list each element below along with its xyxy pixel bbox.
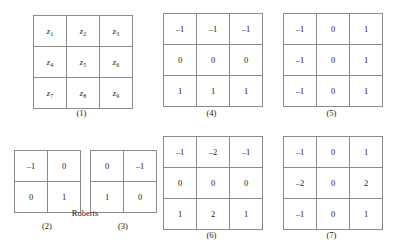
matrix-prewitt-gx: –1 –1 –1 0 0 0 1 1 1	[163, 13, 263, 107]
matrix-cell: z6	[100, 47, 133, 78]
matrix-cell: 0	[230, 168, 263, 199]
matrix-cell: –2	[197, 137, 230, 168]
matrix-cell: 0	[317, 199, 350, 230]
matrix-cell: z3	[100, 16, 133, 47]
matrix-cell: 0	[317, 76, 350, 107]
matrix-row: –1 –2 –1	[164, 137, 263, 168]
matrix-row: z7 z8 z9	[34, 78, 133, 109]
matrix-row: z1 z2 z3	[34, 16, 133, 47]
matrix-row: 0 –1	[91, 151, 157, 182]
matrix-row: –1 –1 –1	[164, 14, 263, 45]
matrix-sobel-gx: –1 –2 –1 0 0 0 1 2 1	[163, 136, 263, 230]
matrix-row: –1 0 1	[284, 14, 383, 45]
matrix-cell: z4	[34, 47, 67, 78]
symbol-subscript: 5	[83, 62, 86, 68]
matrix-row: –1 0 1	[284, 199, 383, 230]
matrix-cell: 0	[317, 14, 350, 45]
matrix-row: –2 0 2	[284, 168, 383, 199]
figure-canvas: z1 z2 z3 z4 z5 z6 z7 z8 z9 (1)	[0, 0, 393, 248]
matrix-cell: 0	[124, 182, 157, 213]
matrix-cell: 2	[350, 168, 383, 199]
matrix-grid: –1 0 1 –1 0 1 –1 0 1	[283, 13, 383, 107]
matrix-cell: –1	[124, 151, 157, 182]
caption-neighborhood: (1)	[33, 109, 130, 118]
matrix-cell: 0	[197, 168, 230, 199]
caption-roberts-gy: (3)	[90, 222, 156, 231]
matrix-row: 1 2 1	[164, 199, 263, 230]
matrix-grid: –1 –1 –1 0 0 0 1 1 1	[163, 13, 263, 107]
matrix-cell: 1	[350, 45, 383, 76]
matrix-prewitt-gy: –1 0 1 –1 0 1 –1 0 1	[283, 13, 383, 107]
matrix-row: 0 0 0	[164, 45, 263, 76]
matrix-cell: 1	[230, 76, 263, 107]
symbol-subscript: 9	[116, 93, 119, 99]
matrix-cell: z5	[67, 47, 100, 78]
matrix-cell: z7	[34, 78, 67, 109]
caption-roberts-gx: (2)	[14, 222, 80, 231]
matrix-cell: z9	[100, 78, 133, 109]
matrix-grid: –1 0 1 –2 0 2 –1 0 1	[283, 136, 383, 230]
symbol-subscript: 1	[50, 31, 53, 37]
symbol-subscript: 4	[50, 62, 53, 68]
matrix-row: –1 0 1	[284, 45, 383, 76]
matrix-neighborhood: z1 z2 z3 z4 z5 z6 z7 z8 z9	[33, 15, 133, 109]
matrix-cell: 0	[15, 182, 48, 213]
matrix-cell: 0	[164, 45, 197, 76]
matrix-grid: –1 0 0 1	[14, 150, 81, 213]
caption-prewitt-gx: (4)	[163, 109, 260, 118]
matrix-cell: –1	[164, 137, 197, 168]
matrix-cell: 0	[230, 45, 263, 76]
matrix-cell: 0	[317, 45, 350, 76]
matrix-row: 0 1	[15, 182, 81, 213]
matrix-cell: z2	[67, 16, 100, 47]
matrix-cell: –1	[284, 14, 317, 45]
matrix-cell: –1	[230, 137, 263, 168]
matrix-cell: 0	[317, 137, 350, 168]
matrix-row: 1 1 1	[164, 76, 263, 107]
matrix-cell: –1	[284, 137, 317, 168]
matrix-row: 0 0 0	[164, 168, 263, 199]
matrix-cell: 1	[197, 76, 230, 107]
matrix-cell: –1	[284, 45, 317, 76]
matrix-cell: 2	[197, 199, 230, 230]
matrix-row: z4 z5 z6	[34, 47, 133, 78]
matrix-grid: z1 z2 z3 z4 z5 z6 z7 z8 z9	[33, 15, 133, 109]
matrix-cell: –1	[15, 151, 48, 182]
matrix-cell: –1	[164, 14, 197, 45]
matrix-row: –1 0	[15, 151, 81, 182]
matrix-row: –1 0 1	[284, 76, 383, 107]
matrix-grid: 0 –1 1 0	[90, 150, 157, 213]
matrix-sobel-gy: –1 0 1 –2 0 2 –1 0 1	[283, 136, 383, 230]
caption-prewitt-gy: (5)	[283, 109, 380, 118]
matrix-cell: –2	[284, 168, 317, 199]
matrix-roberts-gx: –1 0 0 1	[14, 150, 81, 213]
matrix-cell: –1	[284, 76, 317, 107]
matrix-roberts-gy: 0 –1 1 0	[90, 150, 157, 213]
matrix-cell: 0	[197, 45, 230, 76]
matrix-cell: 1	[350, 14, 383, 45]
matrix-row: –1 0 1	[284, 137, 383, 168]
matrix-cell: 1	[164, 199, 197, 230]
matrix-cell: 1	[350, 199, 383, 230]
matrix-cell: –1	[197, 14, 230, 45]
matrix-cell: 1	[350, 76, 383, 107]
matrix-grid: –1 –2 –1 0 0 0 1 2 1	[163, 136, 263, 230]
matrix-cell: 1	[350, 137, 383, 168]
matrix-cell: z8	[67, 78, 100, 109]
symbol-subscript: 3	[116, 31, 119, 37]
matrix-row: 1 0	[91, 182, 157, 213]
symbol-subscript: 2	[83, 31, 86, 37]
caption-sobel-gy: (7)	[283, 231, 380, 240]
matrix-cell: 0	[91, 151, 124, 182]
symbol-subscript: 8	[83, 93, 86, 99]
matrix-cell: 1	[230, 199, 263, 230]
group-label-roberts: Roberts	[14, 209, 156, 218]
symbol-subscript: 6	[116, 62, 119, 68]
caption-sobel-gx: (6)	[163, 231, 260, 240]
matrix-cell: –1	[284, 199, 317, 230]
matrix-cell: 1	[164, 76, 197, 107]
symbol-subscript: 7	[50, 93, 53, 99]
matrix-cell: z1	[34, 16, 67, 47]
matrix-cell: 0	[164, 168, 197, 199]
matrix-cell: –1	[230, 14, 263, 45]
